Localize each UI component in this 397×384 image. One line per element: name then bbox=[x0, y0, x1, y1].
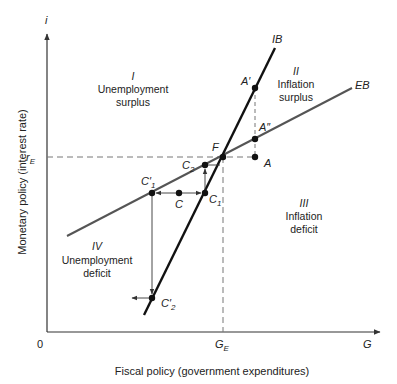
label-c2: C2 bbox=[182, 159, 195, 174]
point-c1-prime bbox=[149, 190, 155, 196]
region-iii-label: III Inflation deficit bbox=[286, 197, 323, 235]
point-a bbox=[252, 154, 258, 160]
point-c1 bbox=[202, 190, 208, 196]
label-c1-prime: C′1 bbox=[141, 175, 155, 190]
y-axis-title: Monetary policy (interest rate) bbox=[16, 109, 28, 255]
g-e-label: GE bbox=[215, 338, 230, 353]
svg-text:deficit: deficit bbox=[83, 267, 111, 279]
eb-label: EB bbox=[355, 79, 370, 91]
label-a-double-prime: A″ bbox=[258, 121, 271, 133]
y-axis-symbol: i bbox=[45, 14, 48, 26]
region-ii-label: II Inflation surplus bbox=[278, 65, 315, 103]
origin-label: 0 bbox=[37, 338, 43, 350]
x-axis-title: Fiscal policy (government expenditures) bbox=[115, 365, 309, 377]
policy-assignment-diagram: i G 0 rE GE Fiscal policy (government ex… bbox=[0, 0, 397, 384]
svg-text:deficit: deficit bbox=[290, 223, 318, 235]
svg-text:surplus: surplus bbox=[116, 96, 150, 108]
svg-text:II: II bbox=[293, 65, 299, 77]
point-a-prime bbox=[252, 85, 258, 91]
point-c2-prime bbox=[149, 295, 155, 301]
svg-text:surplus: surplus bbox=[279, 91, 313, 103]
label-c: C bbox=[175, 198, 183, 210]
svg-text:Inflation: Inflation bbox=[286, 210, 323, 222]
svg-text:I: I bbox=[132, 70, 135, 82]
point-a-double-prime bbox=[252, 136, 258, 142]
svg-text:IV: IV bbox=[92, 240, 103, 252]
ib-label: IB bbox=[272, 33, 282, 45]
label-c2-prime: C′2 bbox=[161, 297, 176, 312]
point-c bbox=[176, 190, 182, 196]
label-c1: C1 bbox=[209, 193, 221, 208]
x-axis-symbol: G bbox=[363, 338, 372, 350]
label-a: A bbox=[263, 157, 271, 169]
point-f bbox=[220, 154, 226, 160]
svg-text:Unemployment: Unemployment bbox=[98, 83, 169, 95]
axes bbox=[47, 34, 380, 332]
svg-text:Unemployment: Unemployment bbox=[62, 254, 133, 266]
label-f: F bbox=[212, 141, 220, 153]
label-a-prime: A′ bbox=[240, 75, 251, 87]
svg-text:Inflation: Inflation bbox=[278, 78, 315, 90]
svg-text:III: III bbox=[300, 197, 309, 209]
region-i-label: I Unemployment surplus bbox=[98, 70, 169, 108]
point-c2 bbox=[202, 162, 208, 168]
region-iv-label: IV Unemployment deficit bbox=[62, 240, 133, 279]
